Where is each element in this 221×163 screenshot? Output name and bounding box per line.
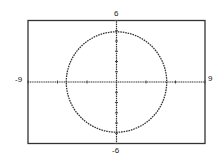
graph-plot <box>0 0 221 163</box>
axes <box>28 21 205 144</box>
